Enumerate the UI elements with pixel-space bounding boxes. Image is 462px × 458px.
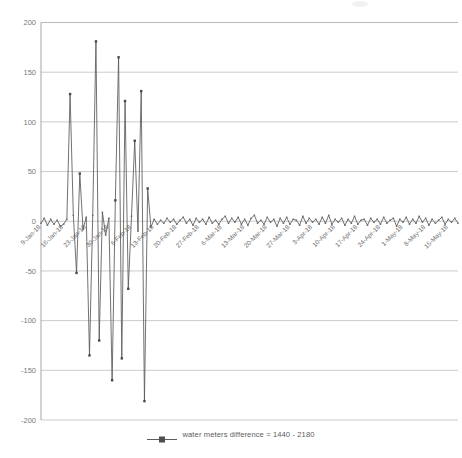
chart-legend: water meters difference = 1440 - 2180 bbox=[0, 430, 462, 439]
line-chart-plot: 200150100500-50-100-150-200 9-Jan-1816-J… bbox=[0, 0, 462, 458]
svg-text:20-Feb-18: 20-Feb-18 bbox=[152, 223, 178, 249]
svg-text:20-Mar-18: 20-Mar-18 bbox=[242, 223, 268, 249]
svg-text:200: 200 bbox=[23, 18, 36, 27]
svg-text:-200: -200 bbox=[21, 416, 36, 425]
svg-text:24-Apr-18: 24-Apr-18 bbox=[356, 223, 382, 249]
y-tick-labels-group: 200150100500-50-100-150-200 bbox=[21, 18, 36, 425]
svg-text:-100: -100 bbox=[21, 316, 36, 325]
svg-text:-50: -50 bbox=[25, 267, 36, 276]
svg-text:9-Jan-18: 9-Jan-18 bbox=[19, 223, 42, 246]
legend-line-marker-icon bbox=[147, 430, 177, 439]
svg-text:50: 50 bbox=[28, 167, 36, 176]
svg-text:100: 100 bbox=[23, 118, 36, 127]
svg-text:13-Mar-18: 13-Mar-18 bbox=[220, 223, 246, 249]
svg-text:27-Feb-18: 27-Feb-18 bbox=[174, 223, 200, 249]
svg-text:1-May-18: 1-May-18 bbox=[380, 223, 405, 248]
svg-text:10-Apr-18: 10-Apr-18 bbox=[311, 223, 337, 249]
svg-text:17-Apr-18: 17-Apr-18 bbox=[333, 223, 359, 249]
legend-series-label: water meters difference = 1440 - 2180 bbox=[182, 430, 314, 439]
chart-container: 200150100500-50-100-150-200 9-Jan-1816-J… bbox=[0, 0, 462, 458]
svg-text:-150: -150 bbox=[21, 366, 36, 375]
svg-text:150: 150 bbox=[23, 68, 36, 77]
svg-text:27-Mar-18: 27-Mar-18 bbox=[265, 223, 291, 249]
svg-text:15-May-18: 15-May-18 bbox=[422, 223, 450, 251]
